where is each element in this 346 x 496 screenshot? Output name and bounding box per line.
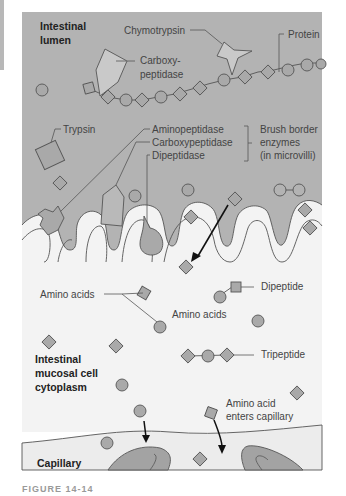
label-dipeptide: Dipeptide <box>261 281 304 292</box>
label-brush-border-2: enzymes <box>260 137 300 148</box>
amino-acid-capillary-circle <box>101 437 113 449</box>
label-trypsin: Trypsin <box>63 124 95 135</box>
label-cytoplasm-1: Intestinal <box>35 353 81 365</box>
tripeptide <box>181 348 234 363</box>
label-intestinal-lumen-2: lumen <box>40 34 71 46</box>
amino-acid-cytoplasm-circle-2 <box>252 315 264 327</box>
label-cytoplasm-2: mucosal cell <box>35 367 98 379</box>
amino-acid-lumen-circle-2 <box>182 184 194 196</box>
figure-caption: FIGURE 14-14 <box>22 484 94 494</box>
label-carboxy-2: peptidase <box>140 69 184 80</box>
label-aminopeptidase: Aminopeptidase <box>152 124 224 135</box>
label-cytoplasm-3: cytoplasm <box>35 381 87 393</box>
protein-digestion-diagram: Intestinal lumen Intestinal mucosal cell… <box>0 0 346 496</box>
label-carboxypeptidase: Carboxypeptidase <box>152 137 233 148</box>
amino-acid-cytoplasm-circle-3 <box>116 379 128 391</box>
label-enters-capillary-1: Amino acid <box>226 398 275 409</box>
label-amino-acids-center: Amino acids <box>172 309 226 320</box>
label-dipeptidase: Dipeptidase <box>152 150 205 161</box>
label-brush-border-1: Brush border <box>260 124 318 135</box>
amino-acid-lumen-circle-1 <box>129 190 141 202</box>
label-capillary: Capillary <box>37 457 82 469</box>
label-enters-capillary-2: enters capillary <box>226 411 293 422</box>
label-tripeptide: Tripeptide <box>261 349 306 360</box>
amino-acid-cytoplasm-circle-4 <box>134 405 146 417</box>
label-amino-acids-left: Amino acids <box>40 289 94 300</box>
label-brush-border-3: (in microvilli) <box>260 150 316 161</box>
label-protein: Protein <box>288 29 320 40</box>
label-chymotrypsin: Chymotrypsin <box>124 25 185 36</box>
amino-acid-cytoplasm-circle <box>154 321 166 333</box>
label-carboxy-1: Carboxy- <box>140 55 181 66</box>
label-intestinal-lumen-1: Intestinal <box>40 20 86 32</box>
free-amino-acid-lumen <box>36 84 48 96</box>
